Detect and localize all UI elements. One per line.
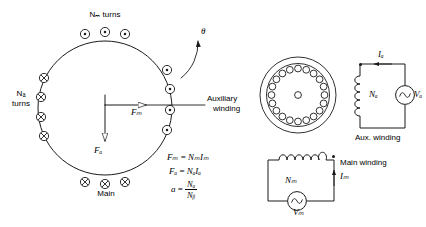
aux-current-label: Iₐ <box>378 50 384 60</box>
theta-angle-label: θ <box>201 27 205 37</box>
main-coil-label: Nₘ <box>285 176 297 186</box>
bottom-conductor-group <box>80 177 129 188</box>
equation-fm-equals: = <box>181 152 186 162</box>
aux-source-label: Vₐ <box>414 90 422 100</box>
aux-polarity-dot <box>359 63 362 66</box>
stator-slot <box>286 117 293 124</box>
figure-vector-layer <box>0 0 426 227</box>
stator-slot <box>286 66 293 73</box>
stator-slot <box>295 65 302 72</box>
top-conductor-group <box>80 27 129 38</box>
equation-ratio-numerator: Nₐ <box>185 179 197 189</box>
equation-fm: Fₘ = NₘIₘ <box>167 152 209 162</box>
equation-fa-lhs: Fₐ <box>169 166 177 176</box>
conductor-dot <box>165 84 174 93</box>
equation-ratio-fraction: Nₐ Nᵦ <box>185 179 197 200</box>
figure-container: Nₘ turns Nₐ turns Main Auxiliary winding… <box>0 0 426 227</box>
stator-slot-ring <box>268 65 328 125</box>
conductor-dot <box>80 29 89 38</box>
equation-ratio-denominator: Nᵦ <box>185 189 197 200</box>
stator-slot <box>279 113 286 120</box>
stator-slot <box>310 70 317 77</box>
force-aux-label: Fₐ <box>94 146 102 156</box>
stator-slot <box>269 83 276 90</box>
stator-outer-circle <box>260 57 336 133</box>
stator-slot <box>320 100 327 107</box>
stator-slot <box>273 107 280 114</box>
conductor-cross <box>120 177 129 186</box>
stator-slot <box>303 66 310 73</box>
stator-slot <box>321 92 328 99</box>
equation-fm-rhs: NₘIₘ <box>188 152 209 162</box>
stator-slot <box>273 76 280 83</box>
main-coil-inductor <box>279 152 327 160</box>
stator-slot <box>320 83 327 90</box>
main-current-label: Iₘ <box>340 172 349 182</box>
force-main-label: Fₘ <box>131 108 143 118</box>
aux-coil-inductor <box>355 76 360 116</box>
equation-ratio-equals: = <box>178 184 183 194</box>
conductor-cross <box>36 112 45 121</box>
main-winding-caption: Main winding <box>340 158 387 168</box>
conductor-dot <box>165 105 174 114</box>
auxiliary-winding-label-line2: winding <box>213 104 240 114</box>
conductor-dot <box>120 29 129 38</box>
stator-top-turns-label: Nₘ turns <box>74 10 136 20</box>
stator-left-turns-label-line2: turns <box>4 99 38 109</box>
main-winding-circuit <box>268 152 335 210</box>
main-polarity-dot <box>332 155 335 158</box>
aux-coil-label: Nₐ <box>369 90 378 100</box>
stator-slot <box>269 100 276 107</box>
stator-left-turns-label-line1: Nₐ <box>4 89 38 99</box>
stator-slot <box>316 76 323 83</box>
stator-inner-bore-circle <box>267 64 330 127</box>
main-source-label: Vₘ <box>293 208 305 218</box>
aux-winding-caption: Aux. winding <box>355 133 400 143</box>
conductor-dot <box>162 65 171 74</box>
equation-ratio-lhs: a <box>171 184 176 194</box>
equation-ratio: a = Nₐ Nᵦ <box>171 179 197 200</box>
stator-slot <box>268 92 275 99</box>
stator-slot <box>279 70 286 77</box>
stator-cross-section <box>260 57 336 133</box>
conductor-cross <box>39 131 48 140</box>
equation-fa-rhs: NₐIₐ <box>187 166 201 176</box>
stator-slot <box>310 113 317 120</box>
conductor-dot <box>162 125 171 134</box>
stator-slot <box>303 117 310 124</box>
aux-winding-circuit <box>355 63 415 128</box>
equation-fa-equals: = <box>179 166 184 176</box>
conductor-cross <box>80 177 89 186</box>
equation-fm-lhs: Fₘ <box>167 152 179 162</box>
stator-slot <box>295 118 302 125</box>
equation-fa: Fₐ = NₐIₐ <box>169 166 201 176</box>
aux-ac-source <box>396 86 415 105</box>
stator-bottom-main-label: Main <box>86 189 126 199</box>
conductor-dot <box>100 27 109 36</box>
conductor-cross <box>39 73 48 82</box>
theta-arc-arrow <box>181 41 198 78</box>
conductor-cross <box>100 179 109 188</box>
rotor-shaft-dot <box>295 92 302 99</box>
auxiliary-winding-label-line1: Auxiliary <box>207 94 237 104</box>
stator-slot <box>316 107 323 114</box>
